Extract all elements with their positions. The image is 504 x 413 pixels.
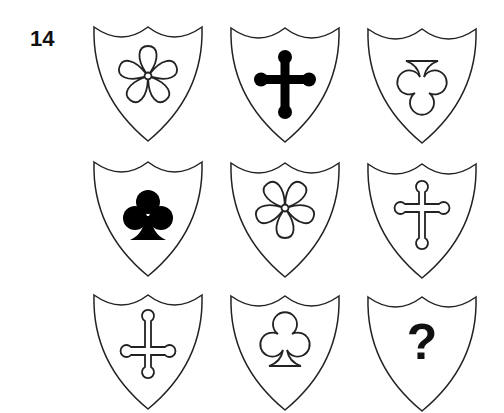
shield-r2-c1 — [92, 160, 204, 278]
missing-answer-question-mark: ? — [366, 317, 478, 367]
shield-r2-c2 — [229, 161, 341, 279]
shield-r1-c2 — [229, 26, 341, 144]
shield-r3-c2 — [229, 294, 341, 412]
shield-r1-c1 — [92, 25, 204, 143]
shield-r2-c3 — [366, 162, 478, 280]
shield-r1-c3 — [366, 27, 478, 145]
shield-r3-c3: ? — [366, 295, 478, 413]
shield-r3-c1 — [92, 293, 204, 411]
puzzle-number: 14 — [30, 26, 54, 52]
